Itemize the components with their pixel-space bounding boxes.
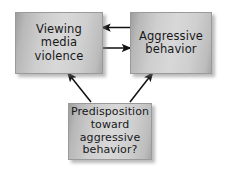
node-viewing-media-violence: Viewing media violence [15, 12, 103, 74]
node-viewing-media-violence-label: Viewing media violence [33, 23, 86, 63]
node-aggressive-behavior-label: Aggressive behavior [137, 30, 205, 57]
diagram-canvas: Viewing media violence Aggressive behavi… [0, 0, 225, 178]
node-predisposition-label: Predisposition toward aggressive behavio… [69, 106, 151, 157]
node-predisposition: Predisposition toward aggressive behavio… [68, 103, 152, 160]
arrow-predisposition-to-aggressive [130, 73, 153, 103]
arrow-predisposition-to-viewing [68, 73, 92, 103]
node-aggressive-behavior: Aggressive behavior [130, 12, 212, 74]
